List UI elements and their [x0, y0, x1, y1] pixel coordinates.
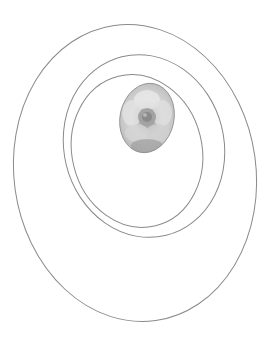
flower-photo — [115, 80, 180, 158]
outer-oval-outline — [0, 9, 269, 338]
frame-artwork — [0, 0, 269, 346]
